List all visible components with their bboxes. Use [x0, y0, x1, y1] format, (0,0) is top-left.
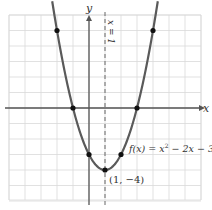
data-point: [134, 105, 139, 110]
data-point: [86, 152, 91, 157]
data-point: [70, 105, 75, 110]
data-point: [150, 28, 155, 33]
data-point: [54, 28, 59, 33]
parabola-chart: y x x = 1 f(x) = x2 − 2x − 3 (1, −4): [0, 0, 212, 210]
x-axis-label: x: [203, 102, 210, 115]
symmetry-label: x = 1: [106, 20, 116, 44]
function-label: f(x) = x2 − 2x − 3: [128, 142, 212, 154]
vertex-label: (1, −4): [109, 174, 144, 185]
data-point: [118, 152, 123, 157]
data-point: [102, 167, 107, 172]
y-axis-label: y: [85, 2, 93, 15]
